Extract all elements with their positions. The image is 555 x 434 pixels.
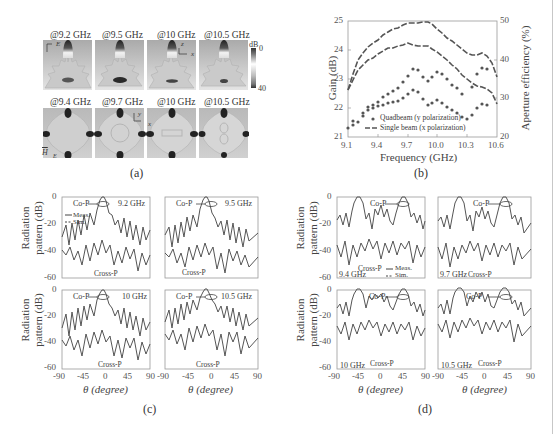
legend-quadbeam: Quadbeam (y polarization) bbox=[380, 113, 461, 122]
d2-cross-label: Cross-P bbox=[468, 270, 492, 279]
d-ytick-20-b: -20 bbox=[319, 310, 331, 320]
d-ytick-40: -40 bbox=[319, 245, 331, 255]
d-ylabel-bottom-1: Radiation bbox=[294, 285, 306, 355]
d-ytick-0: 0 bbox=[327, 191, 332, 201]
d-xtick-45: 45 bbox=[398, 371, 407, 381]
d2-freq: 9.7 GHz bbox=[440, 270, 467, 279]
d3-freq: 10 GHz bbox=[340, 361, 365, 370]
d-xtick-90: 90 bbox=[421, 371, 430, 381]
d4-freq: 10.5 GHz bbox=[441, 361, 472, 370]
d1-freq: 9.4 GHz bbox=[339, 270, 366, 279]
d-xlabel-right: θ (degree) bbox=[462, 383, 507, 395]
xtick-10-3: 10.3 bbox=[458, 140, 474, 150]
d-ylabel-bottom-2: pattern (dB) bbox=[307, 285, 319, 355]
d1-legend-sim: Sim. bbox=[395, 271, 408, 279]
ylabel-aperture-efficiency: Aperture efficiency (%) bbox=[519, 13, 531, 143]
page-edge-divider bbox=[552, 0, 553, 434]
xtick-9-1: 9.1 bbox=[341, 140, 352, 150]
d-xtick-0: 0 bbox=[378, 371, 383, 381]
panel-d-plots bbox=[0, 185, 555, 375]
ytick-right-50: 50 bbox=[500, 15, 509, 25]
d-xtick-m90: -90 bbox=[328, 371, 340, 381]
ytick-right-30: 30 bbox=[500, 92, 509, 102]
d2-co-label: Co-P bbox=[473, 199, 489, 208]
d-ylabel-top-2: pattern (dB) bbox=[307, 193, 319, 263]
panel-b-label: (b) bbox=[414, 166, 428, 181]
xtick-10-0: 10.0 bbox=[428, 140, 444, 150]
d-xtick-m45: -45 bbox=[352, 371, 364, 381]
c-xlabel-left: θ (degree) bbox=[83, 383, 128, 395]
d-ylabel-top-1: Radiation bbox=[294, 193, 306, 263]
d1-co-label: Co-P bbox=[370, 199, 386, 208]
xtick-9-4: 9.4 bbox=[371, 140, 382, 150]
d-ytick-20: -20 bbox=[319, 218, 331, 228]
d-xtick-90-r: 90 bbox=[526, 371, 535, 381]
d-ytick-60: -60 bbox=[319, 272, 331, 282]
xtick-10-6: 10.6 bbox=[488, 140, 504, 150]
d-ytick-0-b: 0 bbox=[327, 284, 332, 294]
gain-efficiency-chart bbox=[0, 0, 555, 180]
d-ytick-40-b: -40 bbox=[319, 336, 331, 346]
c-xlabel-right: θ (degree) bbox=[188, 383, 233, 395]
d4-co-label: Co-P bbox=[466, 292, 482, 301]
d-xtick-m45-r: -45 bbox=[456, 371, 468, 381]
xtick-9-7: 9.7 bbox=[401, 140, 412, 150]
d-xlabel-left: θ (degree) bbox=[358, 383, 403, 395]
ylabel-gain: Gain (dB) bbox=[326, 43, 338, 113]
d3-cross-label: Cross-P bbox=[370, 359, 394, 368]
xlabel-frequency: Frequency (GHz) bbox=[380, 151, 457, 163]
ytick-right-40: 40 bbox=[500, 54, 509, 64]
d3-co-label: Co-P bbox=[369, 292, 385, 301]
ytick-left-25: 25 bbox=[334, 15, 343, 25]
d-xtick-0-r: 0 bbox=[482, 371, 487, 381]
d4-cross-label: Cross-P bbox=[478, 359, 502, 368]
d-xtick-45-r: 45 bbox=[503, 371, 512, 381]
panel-c-label: (c) bbox=[143, 402, 156, 417]
d-xtick-m90-r: -90 bbox=[432, 371, 444, 381]
legend-single-beam: Single beam (x polarization) bbox=[380, 123, 466, 132]
panel-d-label: (d) bbox=[418, 402, 432, 417]
